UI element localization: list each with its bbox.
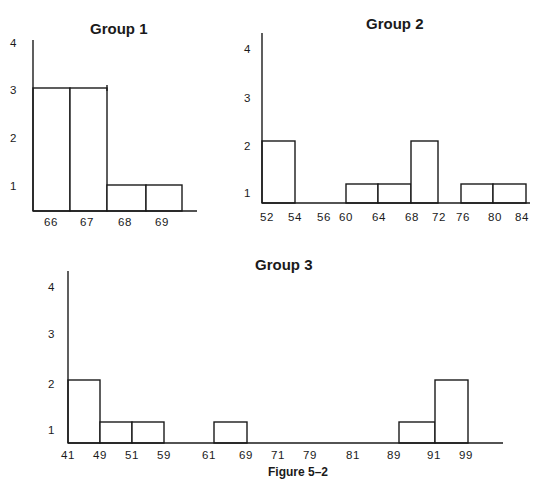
- x-tick-label: 64: [372, 211, 386, 223]
- x-tick-label: 84: [515, 211, 529, 223]
- y-tick-label: 3: [10, 84, 17, 96]
- y-tick-label: 2: [244, 140, 251, 152]
- y-tick-label: 3: [244, 92, 251, 104]
- x-tick-label: 51: [125, 449, 139, 461]
- histogram-bar: [435, 380, 468, 443]
- histogram-bar: [100, 422, 132, 443]
- x-tick-label: 49: [93, 449, 107, 461]
- chart-title: Group 3: [255, 256, 313, 273]
- histogram-bar: [399, 422, 435, 443]
- histogram-group-1: Group 1123466676869: [10, 20, 197, 228]
- x-tick-label: 60: [339, 211, 353, 223]
- histogram-bar: [214, 422, 247, 443]
- histogram-bar: [132, 422, 164, 443]
- histogram-bar: [378, 184, 411, 203]
- x-tick-label: 66: [44, 216, 58, 228]
- x-tick-label: 54: [288, 211, 302, 223]
- x-tick-label: 61: [202, 449, 216, 461]
- x-tick-label: 72: [432, 211, 446, 223]
- x-tick-label: 41: [61, 449, 75, 461]
- chart-title: Group 2: [366, 15, 424, 32]
- histogram-bar: [493, 184, 526, 203]
- x-tick-label: 79: [303, 449, 317, 461]
- histogram-bar: [461, 184, 493, 203]
- histogram-bar: [262, 141, 295, 203]
- x-tick-label: 81: [346, 449, 360, 461]
- y-tick-label: 1: [244, 187, 251, 199]
- x-tick-label: 91: [427, 449, 441, 461]
- chart-title: Group 1: [90, 20, 148, 37]
- y-tick-label: 2: [48, 378, 55, 390]
- histogram-bar: [68, 380, 100, 443]
- histogram-bar: [107, 185, 146, 211]
- figure-caption: Figure 5–2: [268, 465, 328, 479]
- histogram-bar: [33, 88, 70, 211]
- y-tick-label: 1: [48, 424, 55, 436]
- y-tick-label: 1: [10, 180, 17, 192]
- x-tick-label: 52: [260, 211, 274, 223]
- x-tick-label: 69: [239, 449, 253, 461]
- histogram-bar: [146, 185, 182, 211]
- x-tick-label: 76: [456, 211, 470, 223]
- histogram-bar: [70, 88, 107, 211]
- y-tick-label: 3: [48, 328, 55, 340]
- y-tick-label: 4: [244, 43, 251, 55]
- histogram-group-3: Group 31234414951596169717981899199: [48, 256, 503, 461]
- y-tick-label: 2: [10, 132, 17, 144]
- x-tick-label: 89: [387, 449, 401, 461]
- figure-5-2: Group 1123466676869Group 212345254566064…: [0, 0, 544, 492]
- x-tick-label: 59: [157, 449, 171, 461]
- histogram-bar: [346, 184, 378, 203]
- y-tick-label: 4: [10, 37, 17, 49]
- x-tick-label: 67: [80, 216, 94, 228]
- x-tick-label: 80: [488, 211, 502, 223]
- histogram-bar: [411, 141, 438, 203]
- histogram-group-2: Group 2123452545660646872768084: [244, 15, 530, 223]
- x-tick-label: 56: [317, 211, 331, 223]
- x-tick-label: 68: [405, 211, 419, 223]
- y-tick-label: 4: [48, 281, 55, 293]
- x-tick-label: 99: [459, 449, 473, 461]
- x-tick-label: 71: [271, 449, 285, 461]
- x-tick-label: 68: [118, 216, 132, 228]
- x-tick-label: 69: [155, 216, 169, 228]
